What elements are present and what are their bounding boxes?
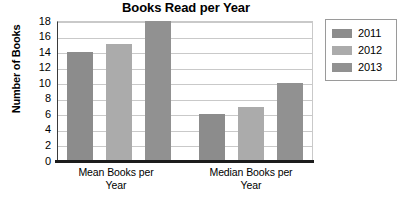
bar-2011-median (199, 114, 225, 161)
gridline-12 (58, 69, 312, 70)
y-axis-tick-0: 0 (27, 156, 51, 167)
legend-swatch-2013 (332, 63, 352, 72)
y-axis-tick-10: 10 (27, 78, 51, 89)
x-axis-category-label-0-line1: Mean Books per (78, 166, 153, 178)
legend-label-2013: 2013 (358, 62, 382, 73)
bar-chart: Books Read per Year Number of Books 1816… (0, 0, 403, 206)
bar-2013-mean (145, 21, 171, 161)
bar-2013-median (277, 83, 303, 161)
legend: 201120122013 (325, 19, 397, 81)
bar-2012-median (238, 107, 264, 161)
legend-item-2012[interactable]: 2012 (332, 42, 396, 59)
chart-title: Books Read per Year (55, 1, 317, 15)
gridline-14 (58, 53, 312, 54)
y-axis-tick-16: 16 (27, 31, 51, 42)
gridline-10 (58, 84, 312, 85)
gridline-8 (58, 100, 312, 101)
legend-label-2011: 2011 (358, 28, 381, 39)
gridline-16 (58, 38, 312, 39)
y-axis-tick-8: 8 (27, 93, 51, 104)
legend-item-2013[interactable]: 2013 (332, 59, 396, 76)
x-axis-category-label-0-line2: Year (106, 179, 127, 191)
gridline-18 (58, 22, 312, 23)
y-axis-tick-6: 6 (27, 109, 51, 120)
y-axis-title: Number of Books (10, 9, 22, 129)
gridline-6 (58, 115, 312, 116)
gridline-4 (58, 131, 312, 132)
legend-label-2012: 2012 (358, 45, 382, 56)
y-axis-tick-18: 18 (27, 16, 51, 27)
legend-swatch-2011 (332, 29, 352, 38)
bar-2011-mean (67, 52, 93, 161)
plot-area (57, 21, 313, 161)
gridline-2 (58, 146, 312, 147)
y-axis-tick-4: 4 (27, 124, 51, 135)
x-axis-category-label-1-line1: Median Books per (209, 166, 292, 178)
x-axis-category-label-1: Median Books per Year (185, 166, 317, 192)
legend-item-2011[interactable]: 2011 (332, 25, 396, 42)
x-axis-category-label-0: Mean Books per Year (52, 166, 180, 192)
bar-2012-mean (106, 44, 132, 161)
y-axis-tick-14: 14 (27, 47, 51, 58)
x-axis-line (55, 160, 314, 163)
x-axis-category-label-1-line2: Year (241, 179, 262, 191)
y-axis-tick-2: 2 (27, 140, 51, 151)
legend-swatch-2012 (332, 46, 352, 55)
y-axis-tick-12: 12 (27, 62, 51, 73)
